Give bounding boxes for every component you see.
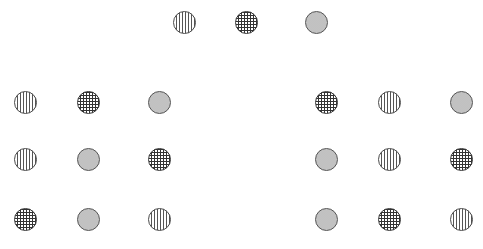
right-r3c2-cross-hatch-grid-circle [378, 208, 401, 231]
top-3-dotted-gray-circle [305, 11, 328, 34]
left-r2c3-cross-hatch-grid-circle [148, 148, 171, 171]
left-r3c1-cross-hatch-grid-circle [14, 208, 37, 231]
left-r2c2-dotted-gray-circle [77, 148, 100, 171]
top-2-cross-hatch-grid-circle [235, 11, 258, 34]
right-r2c3-cross-hatch-grid-circle [450, 148, 473, 171]
left-r1c3-dotted-gray-circle [148, 91, 171, 114]
right-r3c1-dotted-gray-circle [315, 208, 338, 231]
right-r2c1-dotted-gray-circle [315, 148, 338, 171]
left-r3c2-dotted-gray-circle [77, 208, 100, 231]
left-r1c1-vertical-stripes-circle [14, 91, 37, 114]
top-1-vertical-stripes-circle [173, 11, 196, 34]
left-r1c2-cross-hatch-grid-circle [77, 91, 100, 114]
right-r2c2-vertical-stripes-circle [378, 148, 401, 171]
left-r2c1-vertical-stripes-circle [14, 148, 37, 171]
right-r1c3-dotted-gray-circle [450, 91, 473, 114]
right-r1c1-cross-hatch-grid-circle [315, 91, 338, 114]
right-r1c2-vertical-stripes-circle [378, 91, 401, 114]
left-r3c3-vertical-stripes-circle [148, 208, 171, 231]
right-r3c3-vertical-stripes-circle [450, 208, 473, 231]
